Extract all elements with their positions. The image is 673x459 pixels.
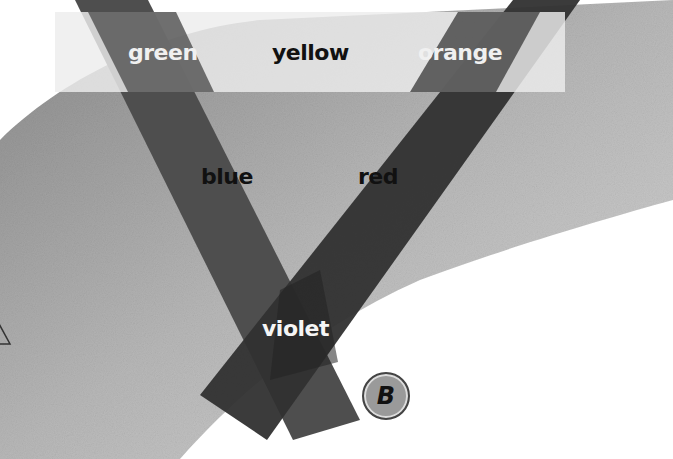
label-green: green [128,40,198,65]
label-orange: orange [418,40,502,65]
color-mixing-diagram [0,0,673,459]
label-violet: violet [262,316,329,341]
label-yellow: yellow [272,40,349,65]
section-b-badge-icon: B [362,372,410,420]
label-blue: blue [201,164,253,189]
label-red: red [358,164,398,189]
